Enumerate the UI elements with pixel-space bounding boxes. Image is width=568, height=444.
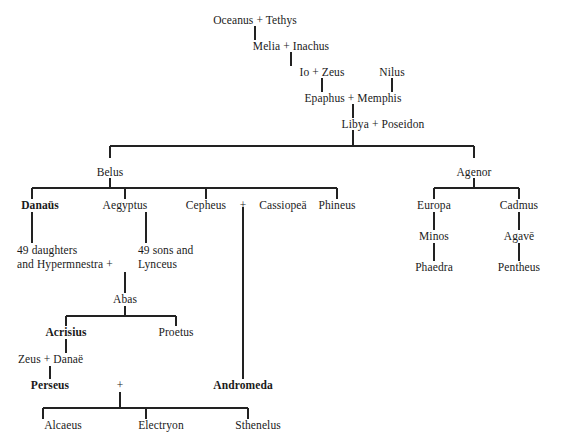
node-epaphus-memphis: Epaphus + Memphis: [305, 92, 402, 105]
node-io-zeus: Io + Zeus: [299, 66, 344, 79]
node-danaus: Danaüs: [21, 199, 59, 212]
node-nilus: Nilus: [379, 66, 404, 79]
node-minos: Minos: [419, 230, 449, 243]
node-cepheus-cassiopea-union-plus: +: [240, 199, 247, 212]
node-aegyptus-offspring-line2: Lynceus: [138, 257, 193, 271]
node-aegyptus: Aegyptus: [103, 199, 148, 212]
node-cassiopea: Cassiopeä: [259, 199, 307, 212]
node-proetus: Proetus: [158, 326, 193, 339]
node-cadmus: Cadmus: [500, 199, 538, 212]
node-zeus-label: Zeus +: [18, 353, 53, 365]
node-alcaeus: Alcaeus: [44, 419, 82, 432]
node-danaus-offspring-line2: and Hypermnestra +: [17, 257, 113, 271]
node-pentheus: Pentheus: [498, 261, 540, 274]
genealogy-chart: Oceanus + Tethys Melia + Inachus Io + Ze…: [0, 0, 568, 444]
node-danae: Danaë: [53, 353, 83, 365]
node-libya-poseidon: Libya + Poseidon: [342, 118, 425, 131]
node-sthenelus: Sthenelus: [235, 419, 281, 432]
node-phaedra: Phaedra: [415, 261, 453, 274]
node-perseus: Perseus: [31, 379, 69, 392]
node-danaus-offspring-line1: 49 daughters: [17, 243, 113, 257]
node-zeus-danae: Zeus + Danaë: [18, 353, 83, 366]
node-aegyptus-offspring: 49 sons and Lynceus: [138, 243, 193, 271]
node-andromeda: Andromeda: [213, 379, 272, 392]
node-melia-inachus: Melia + Inachus: [253, 40, 329, 53]
node-abas: Abas: [113, 293, 137, 306]
tree-connector-lines: [0, 0, 568, 444]
node-electryon: Electryon: [138, 419, 184, 432]
node-aegyptus-offspring-line1: 49 sons and: [138, 243, 193, 257]
node-agave: Agavē: [504, 230, 535, 243]
node-agenor: Agenor: [456, 166, 491, 179]
node-oceanus-tethys: Oceanus + Tethys: [213, 14, 297, 27]
node-acrisius: Acrisius: [45, 326, 86, 339]
node-cepheus: Cepheus: [186, 199, 226, 212]
node-europa: Europa: [417, 199, 451, 212]
node-danaus-offspring: 49 daughters and Hypermnestra +: [17, 243, 113, 271]
node-phineus: Phineus: [318, 199, 355, 212]
node-belus: Belus: [97, 166, 124, 179]
node-perseus-andromeda-union-plus: +: [117, 379, 124, 392]
